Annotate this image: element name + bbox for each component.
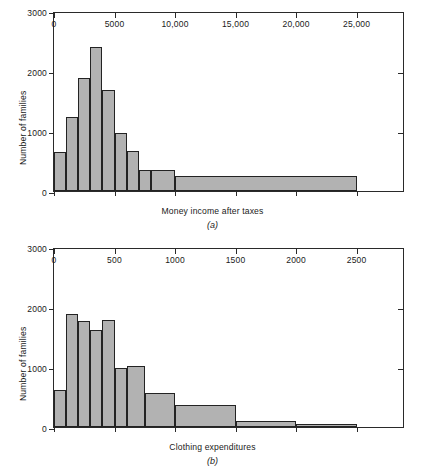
- y-tick-label: 2000: [27, 304, 47, 314]
- histogram-bar: [175, 405, 236, 427]
- figure-panel-b: Number of families 05001000150020002500 …: [0, 240, 425, 475]
- x-tick-label: 10,000: [161, 19, 188, 29]
- histogram-bar: [102, 320, 114, 427]
- histogram-bar: [139, 170, 151, 191]
- histogram-bar: [78, 321, 90, 427]
- x-tick-label: 2000: [286, 255, 306, 265]
- x-tick-mark-top: [357, 249, 358, 254]
- x-axis-title-a: Money income after taxes: [0, 206, 425, 216]
- x-tick-mark-top: [236, 249, 237, 254]
- x-tick-mark: [296, 427, 297, 432]
- histogram-bars-a: [54, 13, 403, 191]
- histogram-bar: [102, 90, 114, 191]
- x-tick-mark: [175, 191, 176, 196]
- y-tick-mark-right: [398, 309, 403, 310]
- histogram-bar: [66, 314, 78, 427]
- x-tick-label: 25,000: [343, 19, 370, 29]
- x-tick-mark: [357, 427, 358, 432]
- y-tick-mark: [49, 133, 54, 134]
- panel-letter-a: (a): [0, 220, 425, 230]
- histogram-bar: [54, 390, 66, 427]
- x-tick-label: 500: [107, 255, 122, 265]
- y-tick-label: 1000: [27, 364, 47, 374]
- x-tick-mark-top: [54, 249, 55, 254]
- x-tick-mark-top: [54, 13, 55, 18]
- histogram-bar: [127, 366, 145, 427]
- y-tick-mark-right: [398, 73, 403, 74]
- x-tick-label: 0: [52, 19, 57, 29]
- x-tick-mark: [296, 191, 297, 196]
- histogram-bar: [115, 368, 127, 427]
- x-tick-mark-top: [357, 13, 358, 18]
- histogram-bar: [145, 393, 175, 427]
- y-tick-label: 0: [42, 424, 47, 434]
- x-tick-mark: [236, 191, 237, 196]
- y-tick-mark-right: [398, 133, 403, 134]
- x-tick-label: 20,000: [282, 19, 309, 29]
- x-tick-mark-top: [175, 249, 176, 254]
- histogram-bars-b: [54, 249, 403, 427]
- histogram-bar: [78, 78, 90, 191]
- y-tick-label: 0: [42, 188, 47, 198]
- histogram-bar: [115, 133, 127, 191]
- x-tick-mark: [115, 427, 116, 432]
- plot-area-b: 05001000150020002500 0100020003000: [53, 248, 404, 428]
- x-tick-mark: [115, 191, 116, 196]
- x-tick-mark-top: [296, 249, 297, 254]
- x-axis-title-b: Clothing expenditures: [0, 442, 425, 452]
- figure-panel-a: Number of families 0500010,00015,00020,0…: [0, 0, 425, 240]
- histogram-bar: [151, 170, 175, 191]
- x-tick-mark-top: [236, 13, 237, 18]
- x-tick-mark-top: [115, 13, 116, 18]
- y-tick-mark-right: [398, 369, 403, 370]
- y-tick-mark: [49, 73, 54, 74]
- y-tick-mark: [49, 13, 54, 14]
- x-tick-mark-top: [175, 13, 176, 18]
- x-tick-mark: [54, 191, 55, 196]
- histogram-bar: [236, 421, 297, 427]
- x-tick-label: 15,000: [222, 19, 249, 29]
- histogram-bar: [66, 117, 78, 191]
- panel-letter-b: (b): [0, 456, 425, 466]
- x-tick-mark-top: [296, 13, 297, 18]
- x-tick-label: 5000: [105, 19, 125, 29]
- histogram-bar: [127, 151, 139, 191]
- x-tick-label: 0: [52, 255, 57, 265]
- y-tick-mark: [49, 249, 54, 250]
- histogram-bar: [296, 424, 357, 427]
- x-tick-mark: [236, 427, 237, 432]
- y-tick-mark: [49, 369, 54, 370]
- histogram-bar: [90, 47, 102, 191]
- histogram-bar: [54, 152, 66, 191]
- y-tick-label: 2000: [27, 68, 47, 78]
- y-tick-label: 1000: [27, 128, 47, 138]
- y-tick-mark: [49, 429, 54, 430]
- plot-area-a: 0500010,00015,00020,00025,000 0100020003…: [53, 12, 404, 192]
- x-tick-label: 1500: [226, 255, 246, 265]
- y-tick-label: 3000: [27, 244, 47, 254]
- histogram-bar: [175, 176, 357, 191]
- x-tick-label: 1000: [165, 255, 185, 265]
- y-tick-mark: [49, 193, 54, 194]
- x-tick-label: 2500: [347, 255, 367, 265]
- x-tick-mark: [54, 427, 55, 432]
- histogram-bar: [90, 330, 102, 427]
- x-tick-mark: [175, 427, 176, 432]
- y-tick-mark: [49, 309, 54, 310]
- x-tick-mark-top: [115, 249, 116, 254]
- x-tick-mark: [357, 191, 358, 196]
- y-tick-label: 3000: [27, 8, 47, 18]
